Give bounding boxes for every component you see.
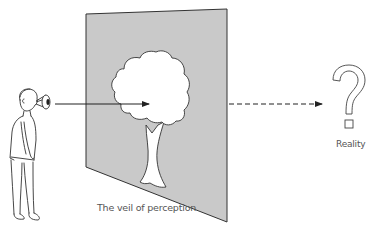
reality-label: Reality [336, 140, 365, 149]
observer-figure [10, 89, 39, 220]
veil-label: The veil of perception [97, 203, 196, 213]
eye-icon [36, 95, 50, 109]
veil-of-perception-diagram [0, 0, 382, 229]
question-mark-icon [333, 65, 365, 128]
